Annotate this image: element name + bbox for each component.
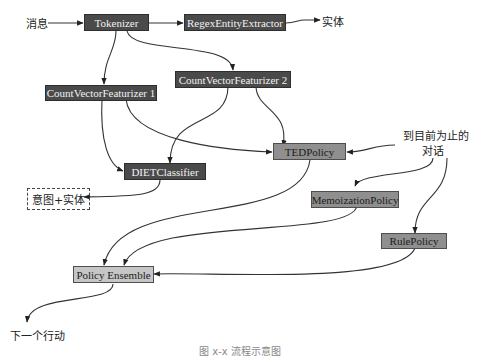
edge-cvf1-ted <box>126 99 272 152</box>
node-tokenizer-label: Tokenizer <box>95 17 139 29</box>
edge-regex-entities <box>286 20 320 23</box>
input-message: 消息 <box>26 15 48 31</box>
input-conversation-so-far: 到目前为止的 对话 <box>403 129 463 159</box>
node-regex-entity-extractor: RegexEntityExtractor <box>184 14 286 31</box>
node-memo-label: MemoizationPolicy <box>312 194 399 206</box>
node-cvf1-label: CountVectorFeaturizer 1 <box>47 87 155 99</box>
node-count-vector-featurizer-1: CountVectorFeaturizer 1 <box>45 85 157 101</box>
edge-rule-ensemble <box>154 248 415 275</box>
edge-cvf2-diet <box>170 86 228 163</box>
edge-tokenizer-cvf2 <box>127 31 233 70</box>
edge-conv-memo <box>355 158 433 186</box>
node-ted-policy: TEDPolicy <box>273 143 346 160</box>
input-conversation-line1: 到目前为止的 <box>403 129 463 144</box>
figure-caption: 图 x-x 流程示意图 <box>0 343 480 357</box>
edge-conv-ted <box>347 145 395 152</box>
edge-cvf1-diet <box>102 99 123 171</box>
edge-ensemble-next <box>27 284 113 322</box>
node-ensemble-label: Policy Ensemble <box>76 269 150 281</box>
edge-tokenizer-cvf1 <box>104 31 116 84</box>
node-rule-label: RulePolicy <box>390 235 439 247</box>
node-tokenizer: Tokenizer <box>84 14 149 31</box>
node-regex-label: RegexEntityExtractor <box>187 17 283 29</box>
node-ted-label: TEDPolicy <box>285 146 335 158</box>
node-cvf2-label: CountVectorFeaturizer 2 <box>179 74 287 86</box>
output-next-action: 下一个行动 <box>10 327 65 343</box>
node-diet-classifier: DIETClassifier <box>124 163 206 180</box>
output-intent-entities: 意图+实体 <box>27 188 90 210</box>
edge-diet-intent <box>84 180 160 197</box>
edge-memo-ensemble <box>124 206 357 265</box>
output-entities: 实体 <box>322 13 344 29</box>
input-conversation-line2: 对话 <box>403 144 463 159</box>
edge-cvf2-ted <box>256 86 284 146</box>
node-rule-policy: RulePolicy <box>381 233 447 249</box>
node-count-vector-featurizer-2: CountVectorFeaturizer 2 <box>175 71 291 88</box>
node-policy-ensemble: Policy Ensemble <box>73 266 154 283</box>
node-diet-label: DIETClassifier <box>131 166 198 178</box>
node-memoization-policy: MemoizationPolicy <box>311 191 399 208</box>
edge-layer <box>0 0 480 357</box>
